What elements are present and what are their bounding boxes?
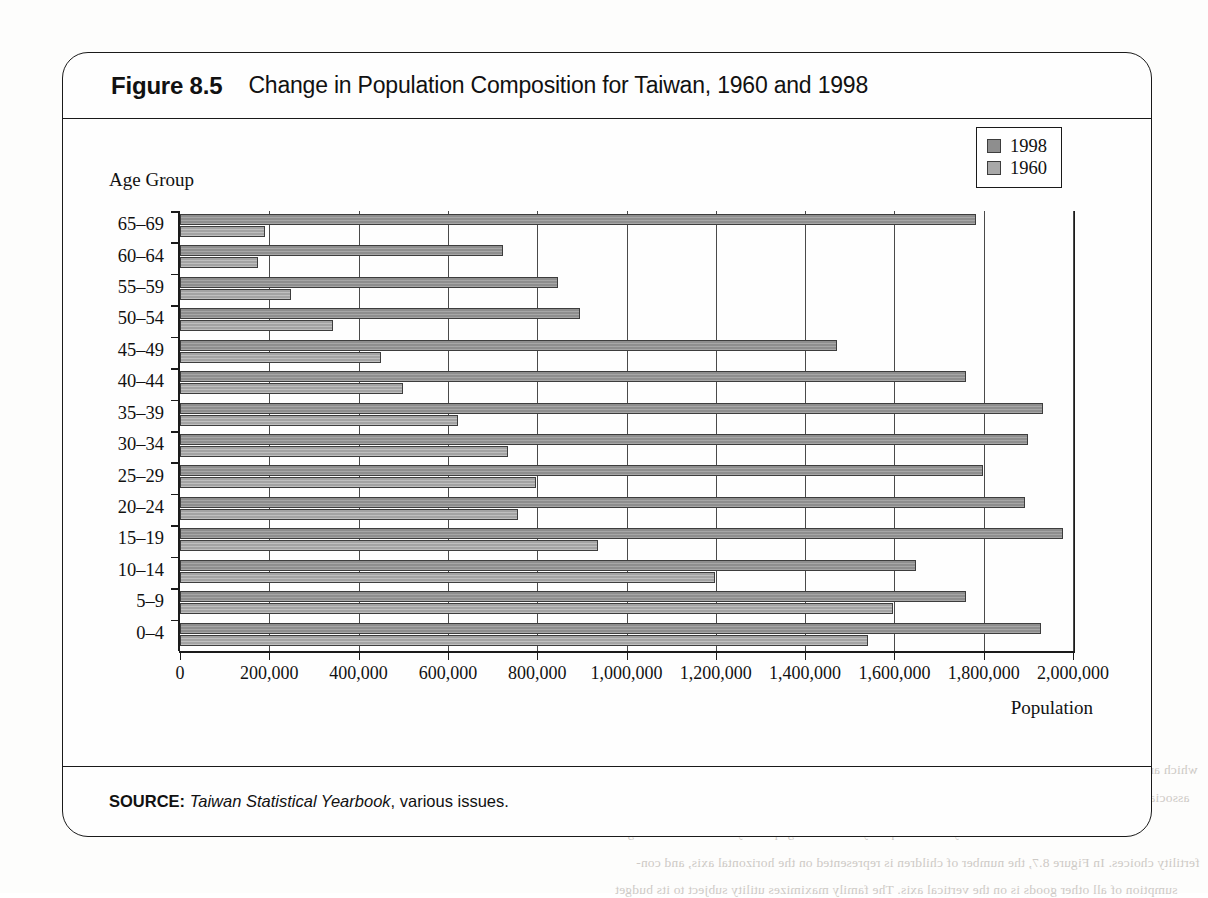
bar-1960 [180,540,598,551]
bar-1998 [180,591,966,602]
x-axis-tick [805,651,806,660]
x-axis-tick-label: 200,000 [240,663,299,684]
y-axis-title: Age Group [109,169,194,191]
bar-1998 [180,623,1041,634]
bar-1998 [180,340,837,351]
figure-footer: SOURCE: Taiwan Statistical Yearbook, var… [63,766,1151,836]
legend-entry: 1998 [987,135,1047,157]
bar-1960 [180,320,333,331]
bar-1998 [180,560,916,571]
figure-number-label: Figure 8.5 [111,72,222,100]
figure-header: Figure 8.5 Change in Population Composit… [63,53,1151,119]
bar-1998 [180,308,580,319]
x-axis-tick-label: 400,000 [329,663,388,684]
x-axis-tick [448,651,449,660]
y-axis-category-label: 65–69 [118,214,164,235]
bar-1960 [180,572,715,583]
gridline [984,211,985,651]
y-axis-category-label: 35–39 [118,402,164,423]
x-axis-tick-label: 800,000 [508,663,567,684]
bar-1960 [180,289,291,300]
y-axis-tick [171,337,180,339]
x-axis-tick [627,651,628,660]
y-axis-category-label: 40–44 [118,371,164,392]
bar-1998 [180,497,1025,508]
source-note: SOURCE: Taiwan Statistical Yearbook, var… [109,792,509,811]
bar-1998 [180,371,966,382]
y-axis-tick [171,557,180,559]
bar-1998 [180,403,1043,414]
source-label: SOURCE: [109,792,185,810]
bar-1960 [180,257,258,268]
y-axis-tick [171,620,180,622]
bar-1960 [180,415,458,426]
x-axis-tick [984,651,985,660]
bar-1960 [180,635,868,646]
y-axis-category-label: 30–34 [118,434,164,455]
chart-legend: 19981960 [976,127,1062,188]
x-axis-tick [359,651,360,660]
bar-1960 [180,509,518,520]
figure-title: Change in Population Composition for Tai… [248,72,868,99]
gridline [894,211,895,651]
x-axis-tick-label: 600,000 [419,663,478,684]
x-axis-tick-label: 1,000,000 [591,663,663,684]
x-axis-tick [716,651,717,660]
bar-1960 [180,352,381,363]
bar-1998 [180,465,983,476]
legend-entry: 1960 [987,157,1047,179]
y-axis-tick [171,525,180,527]
bar-1960 [180,603,893,614]
figure-container: Figure 8.5 Change in Population Composit… [62,52,1152,837]
y-axis-tick [171,462,180,464]
x-axis-tick [537,651,538,660]
x-axis-tick-label: 1,400,000 [769,663,841,684]
y-axis-category-label: 15–19 [118,528,164,549]
showthrough-text-line5: sumption of all other goods is on the ve… [615,882,1178,898]
bar-1998 [180,528,1063,539]
x-axis-tick-label: 2,000,000 [1037,663,1109,684]
y-axis-category-label: 45–49 [118,339,164,360]
x-axis-tick-label: 1,800,000 [948,663,1020,684]
chart-area: Age Group Population 65–6960–6455–5950–5… [63,119,1151,766]
bar-1960 [180,446,508,457]
bar-1998 [180,214,976,225]
y-axis-tick [171,494,180,496]
x-axis-title: Population [1011,697,1093,719]
y-axis-category-label: 55–59 [118,277,164,298]
gridline [627,211,628,651]
bar-1998 [180,277,558,288]
bar-1998 [180,245,503,256]
source-work-title: Taiwan Statistical Yearbook [190,792,391,810]
legend-swatch-icon [987,161,1001,175]
legend-label: 1998 [1010,136,1047,157]
x-axis-tick-label: 1,200,000 [680,663,752,684]
y-axis-category-label: 0–4 [136,622,164,643]
gridline [805,211,806,651]
plot-area: 65–6960–6455–5950–5445–4940–4435–3930–34… [178,211,1073,651]
x-axis-tick [180,651,181,660]
legend-swatch-icon [987,139,1001,153]
source-rest: , various issues. [391,792,509,810]
y-axis-category-label: 5–9 [136,591,164,612]
legend-label: 1960 [1010,158,1047,179]
gridline [716,211,717,651]
bar-1960 [180,477,536,488]
x-axis-tick-label: 1,600,000 [858,663,930,684]
bar-1960 [180,226,265,237]
y-axis-category-label: 60–64 [118,245,164,266]
showthrough-text-line4: fertility choices. In Figure 8.7, the nu… [636,855,1200,871]
gridline [1073,211,1074,651]
x-axis-tick-label: 0 [176,663,185,684]
y-axis-tick [171,588,180,590]
y-axis-tick [171,211,180,213]
x-axis-tick [894,651,895,660]
y-axis-tick [171,305,180,307]
y-axis-tick [171,400,180,402]
y-axis-category-label: 25–29 [118,465,164,486]
x-axis-tick [1073,651,1074,660]
y-axis-category-label: 10–14 [118,559,164,580]
y-axis-tick [171,368,180,370]
x-axis-tick [269,651,270,660]
y-axis-tick [171,431,180,433]
